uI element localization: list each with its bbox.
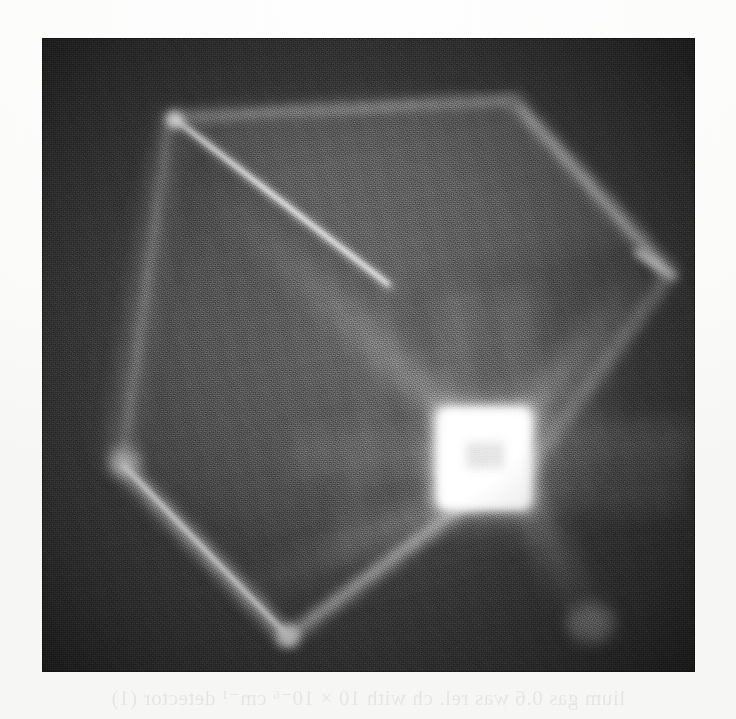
scanned-page: lium gas 0.6 was rel. ch with 10 × 10⁻⁶ … (0, 0, 736, 719)
photo-vignette (42, 38, 695, 672)
showthrough-text-bottom: lium gas 0.6 was rel. ch with 10 × 10⁻⁶ … (0, 686, 736, 711)
crystal-topograph-photo (42, 38, 695, 672)
